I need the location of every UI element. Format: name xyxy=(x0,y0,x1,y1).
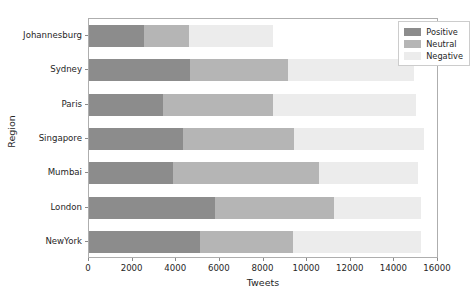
y-tick-mark xyxy=(85,35,88,36)
bar-segment-positive[interactable] xyxy=(89,128,183,150)
bar-row[interactable] xyxy=(89,162,418,184)
x-tick-mark xyxy=(175,258,176,261)
x-tick-label-6000: 6000 xyxy=(208,263,230,273)
bar-segment-positive[interactable] xyxy=(89,162,173,184)
y-tick-label-paris: Paris xyxy=(62,99,82,109)
y-tick-label-london: London xyxy=(50,202,82,212)
bar-segment-neutral[interactable] xyxy=(144,25,189,47)
x-tick-mark xyxy=(263,258,264,261)
x-tick-label-8000: 8000 xyxy=(252,263,274,273)
y-tick-mark xyxy=(85,69,88,70)
y-tick-mark xyxy=(85,172,88,173)
x-tick-mark xyxy=(437,258,438,261)
bar-row[interactable] xyxy=(89,197,421,219)
bar-row[interactable] xyxy=(89,94,416,116)
bar-segment-negative[interactable] xyxy=(288,59,414,81)
bar-segment-positive[interactable] xyxy=(89,94,163,116)
x-tick-label-14000: 14000 xyxy=(380,263,407,273)
x-tick-label-4000: 4000 xyxy=(164,263,186,273)
x-tick-mark xyxy=(393,258,394,261)
y-tick-label-sydney: Sydney xyxy=(50,64,82,74)
x-tick-mark xyxy=(219,258,220,261)
legend-label-negative: Negative xyxy=(426,51,463,61)
y-tick-label-johannesburg: Johannesburg xyxy=(23,30,82,40)
bar-row[interactable] xyxy=(89,128,424,150)
bar-segment-neutral[interactable] xyxy=(215,197,334,219)
y-tick-mark xyxy=(85,104,88,105)
plot-area xyxy=(88,18,438,258)
y-tick-label-newyork: NewYork xyxy=(45,236,82,246)
x-tick-mark xyxy=(132,258,133,261)
legend-label-positive: Positive xyxy=(426,27,458,37)
legend-swatch-negative xyxy=(404,52,421,60)
bar-segment-positive[interactable] xyxy=(89,59,190,81)
bar-segment-positive[interactable] xyxy=(89,197,215,219)
legend-swatch-neutral xyxy=(404,40,421,48)
y-tick-mark xyxy=(85,207,88,208)
bar-row[interactable] xyxy=(89,59,414,81)
bar-segment-neutral[interactable] xyxy=(190,59,288,81)
legend-item-neutral[interactable]: Neutral xyxy=(404,38,463,49)
x-tick-label-2000: 2000 xyxy=(121,263,143,273)
y-axis-tick-labels: JohannesburgSydneyParisSingaporeMumbaiLo… xyxy=(0,18,82,258)
y-tick-mark xyxy=(85,138,88,139)
x-tick-mark xyxy=(306,258,307,261)
bar-segment-negative[interactable] xyxy=(294,128,424,150)
legend-label-neutral: Neutral xyxy=(426,39,456,49)
x-axis-title: Tweets xyxy=(88,277,438,288)
chart-figure: Region JohannesburgSydneyParisSingaporeM… xyxy=(0,0,476,299)
x-tick-label-10000: 10000 xyxy=(292,263,319,273)
x-tick-label-0: 0 xyxy=(85,263,90,273)
bar-segment-neutral[interactable] xyxy=(183,128,294,150)
y-tick-label-singapore: Singapore xyxy=(39,133,82,143)
y-tick-label-mumbai: Mumbai xyxy=(48,167,82,177)
x-tick-label-16000: 16000 xyxy=(423,263,450,273)
y-tick-mark xyxy=(85,241,88,242)
x-tick-label-12000: 12000 xyxy=(336,263,363,273)
bar-segment-negative[interactable] xyxy=(189,25,273,47)
bar-segment-negative[interactable] xyxy=(319,162,418,184)
bar-segment-neutral[interactable] xyxy=(200,231,293,253)
bar-segment-negative[interactable] xyxy=(334,197,421,219)
bar-row[interactable] xyxy=(89,231,421,253)
bar-row[interactable] xyxy=(89,25,273,47)
legend-swatch-positive xyxy=(404,28,421,36)
bar-segment-negative[interactable] xyxy=(273,94,416,116)
bar-segment-positive[interactable] xyxy=(89,25,144,47)
bar-segment-neutral[interactable] xyxy=(163,94,273,116)
bar-segment-neutral[interactable] xyxy=(173,162,319,184)
chart-legend: PositiveNeutralNegative xyxy=(398,21,470,66)
bar-segment-positive[interactable] xyxy=(89,231,200,253)
legend-item-negative[interactable]: Negative xyxy=(404,50,463,61)
x-axis-title-text: Tweets xyxy=(247,277,279,288)
bar-segment-negative[interactable] xyxy=(293,231,421,253)
x-tick-mark xyxy=(350,258,351,261)
x-tick-mark xyxy=(88,258,89,261)
legend-item-positive[interactable]: Positive xyxy=(404,26,463,37)
